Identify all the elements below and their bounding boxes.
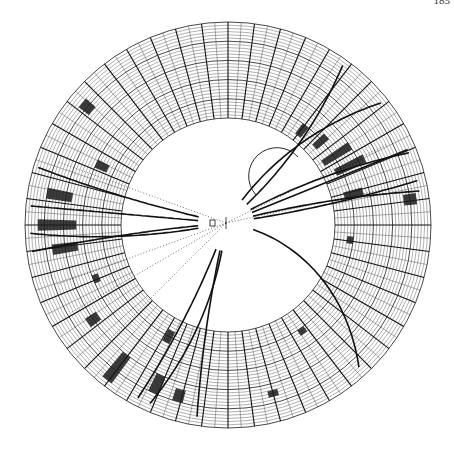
cell-wall [299, 72, 362, 144]
chamber-grid [25, 22, 431, 428]
layer-ring [121, 118, 335, 332]
cell-wall [299, 305, 362, 377]
cell-wall [75, 296, 147, 359]
neutral-track [226, 186, 402, 223]
hit-cell [38, 219, 76, 230]
event-display [0, 0, 454, 451]
hit-cell [297, 326, 307, 336]
charged-track [31, 206, 198, 221]
vertex-box [210, 220, 215, 226]
hit-cell [346, 236, 353, 244]
hit-cell [267, 389, 279, 398]
cell-wall [94, 72, 157, 144]
cell-wall [94, 305, 157, 377]
hit-cell [85, 312, 101, 327]
neutral-track [226, 144, 388, 223]
hit-cell [92, 273, 101, 283]
neutral-track [57, 161, 226, 223]
hit-cell [46, 188, 73, 202]
hit-cell [403, 193, 417, 206]
cell-wall [308, 296, 380, 359]
vertex-marker [210, 217, 226, 229]
